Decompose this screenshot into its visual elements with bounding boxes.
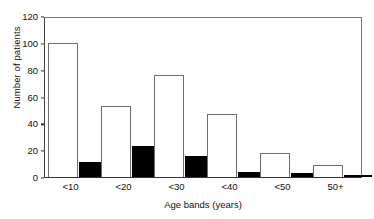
- bar-open: [48, 43, 78, 177]
- x-tick-label: 50+: [327, 182, 343, 192]
- bar-open: [101, 106, 131, 177]
- bar-group: [257, 18, 310, 177]
- y-tick-label: 20: [27, 146, 38, 156]
- x-tick-label: <50: [274, 182, 290, 192]
- y-tick-label: 0: [33, 173, 38, 183]
- bar-open: [313, 165, 343, 177]
- plot-area: [44, 17, 362, 178]
- bar-group: [98, 18, 151, 177]
- bar-open: [260, 153, 290, 177]
- x-tick-label: <20: [115, 182, 131, 192]
- chart-figure: Number of patients 020406080100120 <10<2…: [0, 0, 374, 219]
- y-tick-label: 120: [22, 12, 38, 22]
- bar-group: [45, 18, 98, 177]
- y-tick-label: 100: [22, 39, 38, 49]
- y-axis-ticks: 020406080100120: [0, 0, 44, 195]
- x-axis-title: Age bands (years): [44, 199, 362, 210]
- bar-group: [204, 18, 257, 177]
- x-tick-label: <40: [221, 182, 237, 192]
- x-tick-label: <10: [62, 182, 78, 192]
- y-tick-label: 60: [27, 93, 38, 103]
- x-axis-ticks: <10<20<30<40<5050+: [44, 182, 362, 198]
- x-tick-label: <30: [168, 182, 184, 192]
- bar-group: [151, 18, 204, 177]
- bar-open: [154, 75, 184, 177]
- bar-solid: [344, 175, 372, 177]
- bar-open: [207, 114, 237, 177]
- bar-group: [310, 18, 363, 177]
- bar-group-container: [45, 18, 361, 177]
- y-tick-label: 80: [27, 66, 38, 76]
- y-tick-label: 40: [27, 120, 38, 130]
